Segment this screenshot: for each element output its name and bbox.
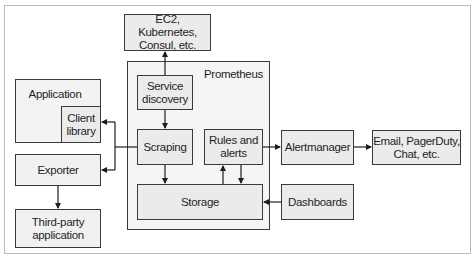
prometheus-title: Prometheus: [204, 68, 263, 80]
node-label-line: Consul, etc.: [125, 39, 210, 52]
node-label: Scraping: [144, 141, 187, 154]
node-label-line: Service: [142, 80, 188, 93]
node-exporter: Exporter: [15, 154, 101, 186]
node-label-line: Chat, etc.: [373, 148, 460, 161]
node-label-line: Rules and: [209, 134, 258, 147]
node-third-party-application: Third-party application: [15, 209, 101, 248]
node-label-line: alerts: [209, 147, 258, 160]
application-title: Application: [16, 88, 100, 100]
node-label-line: Client: [66, 112, 95, 125]
node-alertmanager: Alertmanager: [281, 130, 354, 165]
node-rules-and-alerts: Rules and alerts: [204, 129, 263, 165]
node-email-pagerduty-chat: Email, PagerDuty, Chat, etc.: [372, 130, 461, 165]
node-client-library: Client library: [61, 106, 101, 143]
node-label-line: discovery: [142, 93, 188, 106]
node-label: Alertmanager: [285, 141, 350, 154]
node-label-line: application: [32, 229, 84, 242]
node-scraping: Scraping: [137, 129, 193, 165]
node-dashboards: Dashboards: [281, 184, 354, 220]
node-service-discovery: Service discovery: [137, 75, 193, 110]
node-label-line: library: [66, 125, 95, 138]
node-ec2-kubernetes-consul: EC2, Kubernetes, Consul, etc.: [124, 14, 211, 51]
node-label-line: Email, PagerDuty,: [373, 135, 460, 148]
node-label: Exporter: [37, 164, 78, 177]
node-label-line: EC2, Kubernetes,: [125, 13, 210, 39]
node-label: Dashboards: [288, 196, 347, 209]
node-label: Storage: [181, 196, 219, 209]
node-label-line: Third-party: [32, 216, 84, 229]
node-storage: Storage: [137, 184, 263, 220]
